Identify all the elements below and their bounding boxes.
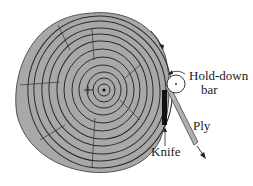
hold-down-bar-label-line1: Hold-down — [189, 69, 248, 82]
knife-label: Knife — [151, 145, 181, 158]
hold-down-rotation-arrow-icon — [168, 70, 185, 75]
hold-down-bar-label-line2: bar — [201, 83, 218, 96]
ply-label: Ply — [193, 119, 210, 132]
ply-strip — [165, 86, 198, 145]
log-pith — [102, 88, 105, 91]
diagram-canvas: Hold-down bar Ply Knife — [0, 0, 253, 186]
hold-down-bar-axle — [175, 83, 177, 85]
knife — [162, 90, 167, 125]
ply-direction-arrow-icon — [197, 146, 206, 159]
